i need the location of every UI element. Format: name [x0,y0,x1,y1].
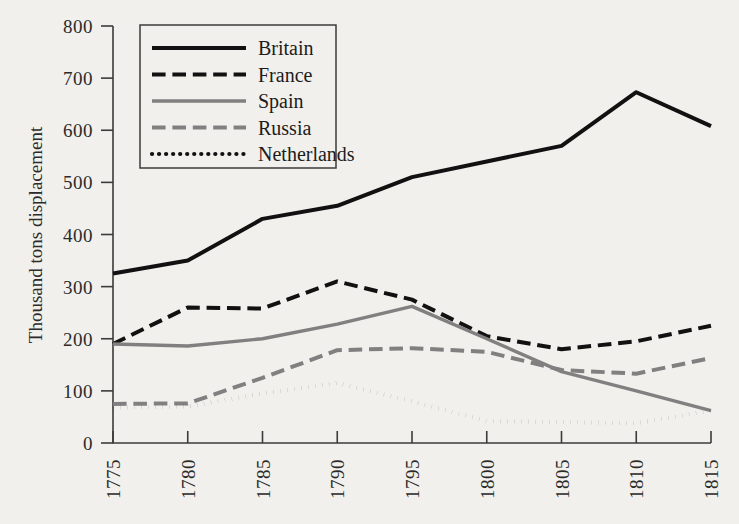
x-tick-label-1800: 1800 [477,459,498,499]
y-tick-label-200: 200 [63,329,93,350]
y-tick-label-500: 500 [63,172,93,193]
legend-label-france: France [258,64,313,86]
x-tick-label-1780: 1780 [178,459,199,499]
x-tick-label-1815: 1815 [701,459,722,499]
chart-legend: BritainFranceSpainRussiaNetherlands [140,25,355,168]
x-tick-label-1805: 1805 [552,459,573,499]
y-tick-label-800: 800 [63,16,93,37]
chart-page: 0100200300400500600700800 17751780178517… [0,0,739,524]
y-tick-label-600: 600 [63,120,93,141]
y-tick-label-400: 400 [63,225,93,246]
legend-label-russia: Russia [258,117,311,139]
x-tick-label-1775: 1775 [103,459,124,499]
x-tick-label-1795: 1795 [402,459,423,499]
y-tick-label-0: 0 [83,433,93,454]
y-tick-label-100: 100 [63,381,93,402]
x-tick-label-1790: 1790 [327,459,348,499]
x-tick-label-1810: 1810 [626,459,647,499]
naval-tonnage-line-chart: 0100200300400500600700800 17751780178517… [0,0,739,524]
y-tick-label-700: 700 [63,68,93,89]
legend-label-britain: Britain [258,37,314,59]
legend-label-netherlands: Netherlands [258,143,355,165]
legend-label-spain: Spain [258,90,304,113]
y-axis-title: Thousand tons displacement [25,126,46,343]
x-tick-label-1785: 1785 [253,459,274,499]
y-tick-label-300: 300 [63,277,93,298]
